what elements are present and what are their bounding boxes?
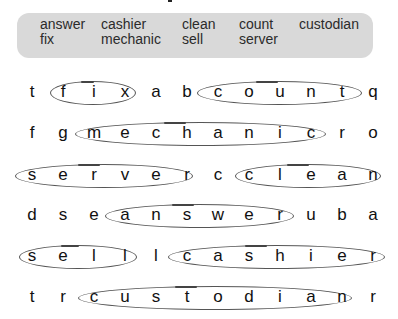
grid-letter: c <box>208 165 228 185</box>
grid-letter: t <box>22 82 42 102</box>
grid-letter: i <box>84 82 104 102</box>
word-bank: answercashiercleancountcustodianfixmecha… <box>17 13 373 58</box>
grid-letter: h <box>177 123 197 143</box>
grid-letter: r <box>177 165 197 185</box>
grid-letter: e <box>115 123 135 143</box>
grid-letter: n <box>363 165 383 185</box>
grid-letter: c <box>208 82 228 102</box>
grid-letter: c <box>146 123 166 143</box>
grid-letter: h <box>270 246 290 266</box>
grid-letter: e <box>146 165 166 185</box>
grid-letter: s <box>22 246 42 266</box>
grid-letter: n <box>146 205 166 225</box>
word-bank-item: sell <box>182 31 203 47</box>
grid-letter: b <box>332 205 352 225</box>
word-bank-item: clean <box>182 16 215 32</box>
grid-letter: d <box>22 205 42 225</box>
grid-letter: g <box>53 123 73 143</box>
grid-letter: d <box>239 287 259 307</box>
grid-letter: o <box>239 82 259 102</box>
grid-letter: e <box>84 205 104 225</box>
grid-letter: r <box>270 205 290 225</box>
grid-letter: r <box>332 123 352 143</box>
word-bank-item: server <box>239 31 278 47</box>
grid-letter: s <box>146 287 166 307</box>
grid-letter: l <box>115 246 135 266</box>
grid-letter: c <box>301 123 321 143</box>
word-bank-item: mechanic <box>101 31 161 47</box>
grid-letter: u <box>270 82 290 102</box>
grid-letter: a <box>115 205 135 225</box>
grid-letter: t <box>177 287 197 307</box>
grid-letter: a <box>301 287 321 307</box>
grid-letter: e <box>301 165 321 185</box>
grid-letter: c <box>177 246 197 266</box>
grid-letter: f <box>53 82 73 102</box>
grid-letter: r <box>84 165 104 185</box>
grid-letter: r <box>363 246 383 266</box>
grid-letter: e <box>53 165 73 185</box>
word-bank-item: custodian <box>299 16 359 32</box>
grid-letter: q <box>363 82 383 102</box>
grid-letter: x <box>115 82 135 102</box>
grid-letter: r <box>363 287 383 307</box>
word-bank-item: fix <box>40 31 54 47</box>
grid-letter: m <box>84 123 104 143</box>
grid-letter: n <box>301 82 321 102</box>
grid-letter: e <box>239 205 259 225</box>
word-bank-item: answer <box>40 16 85 32</box>
grid-letter: n <box>332 287 352 307</box>
grid-letter: o <box>208 287 228 307</box>
grid-letter: o <box>363 123 383 143</box>
grid-letter: i <box>301 246 321 266</box>
grid-letter: a <box>332 165 352 185</box>
grid-letter: l <box>146 246 166 266</box>
cropped-title <box>168 0 172 2</box>
grid-letter: i <box>270 123 290 143</box>
grid-letter: r <box>53 287 73 307</box>
grid-letter: s <box>177 205 197 225</box>
grid-letter: s <box>239 246 259 266</box>
grid-letter: c <box>239 165 259 185</box>
grid-letter: b <box>177 82 197 102</box>
grid-letter: w <box>208 205 228 225</box>
grid-letter: i <box>270 287 290 307</box>
grid-letter: t <box>22 287 42 307</box>
grid-letter: t <box>332 82 352 102</box>
grid-letter: e <box>53 246 73 266</box>
grid-letter: a <box>208 123 228 143</box>
grid-letter: e <box>332 246 352 266</box>
grid-letter: u <box>301 205 321 225</box>
word-bank-item: cashier <box>101 16 146 32</box>
grid-letter: a <box>208 246 228 266</box>
grid-letter: l <box>84 246 104 266</box>
grid-letter: n <box>239 123 259 143</box>
grid-letter: v <box>115 165 135 185</box>
grid-letter: a <box>146 82 166 102</box>
grid-letter: l <box>270 165 290 185</box>
grid-letter: f <box>22 123 42 143</box>
grid-letter: s <box>53 205 73 225</box>
grid-letter: c <box>84 287 104 307</box>
grid-letter: u <box>115 287 135 307</box>
word-bank-item: count <box>239 16 273 32</box>
grid-letter: a <box>363 205 383 225</box>
grid-letter: s <box>22 165 42 185</box>
